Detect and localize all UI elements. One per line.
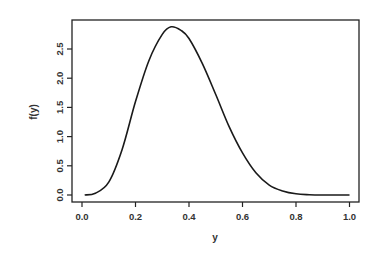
y-tick-label: 2.5 bbox=[54, 42, 65, 56]
density-curve bbox=[85, 27, 350, 195]
x-tick-label: 1.0 bbox=[343, 211, 356, 222]
x-tick-label: 0.8 bbox=[289, 211, 302, 222]
x-axis-title: y bbox=[212, 232, 218, 243]
x-axis: 0.00.20.40.60.81.0 bbox=[75, 202, 356, 222]
y-tick-label: 0.0 bbox=[54, 188, 65, 201]
x-tick-label: 0.6 bbox=[236, 211, 249, 222]
y-tick-label: 0.5 bbox=[54, 158, 65, 172]
y-tick-label: 1.0 bbox=[54, 130, 65, 143]
y-tick-label: 1.5 bbox=[54, 100, 65, 114]
x-tick-label: 0.0 bbox=[75, 211, 88, 222]
plot-frame bbox=[72, 20, 359, 202]
y-axis-title: f(y) bbox=[28, 104, 39, 120]
x-tick-label: 0.4 bbox=[182, 211, 196, 222]
density-chart: 0.00.20.40.60.81.0 0.00.51.01.52.02.5 y … bbox=[0, 0, 376, 257]
y-axis: 0.00.51.01.52.02.5 bbox=[54, 42, 72, 202]
x-tick-label: 0.2 bbox=[129, 211, 142, 222]
y-tick-label: 2.0 bbox=[54, 72, 65, 85]
